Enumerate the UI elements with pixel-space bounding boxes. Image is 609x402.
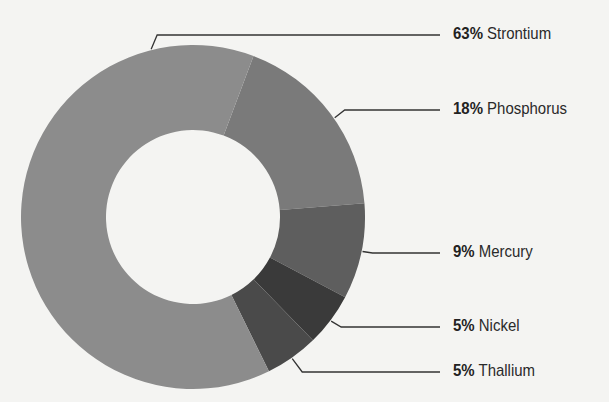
label-phosphorus: 18% Phosphorus xyxy=(453,99,567,119)
label-pct: 9% xyxy=(453,242,475,261)
label-pct: 18% xyxy=(453,99,483,118)
leader-line-mercury xyxy=(363,251,440,253)
label-pct: 5% xyxy=(453,316,475,335)
leader-line-phosphorus xyxy=(335,110,440,118)
leader-line-thallium xyxy=(292,359,440,372)
label-name: Phosphorus xyxy=(487,99,567,118)
label-pct: 63% xyxy=(453,24,483,43)
label-pct: 5% xyxy=(453,361,475,380)
label-mercury: 9% Mercury xyxy=(453,242,533,262)
label-name: Mercury xyxy=(479,242,533,261)
slice-strontium xyxy=(21,45,269,389)
label-name: Thallium xyxy=(479,361,536,380)
donut-chart xyxy=(0,0,609,402)
label-nickel: 5% Nickel xyxy=(453,316,520,336)
label-name: Strontium xyxy=(487,24,551,43)
leader-line-nickel xyxy=(331,321,440,327)
label-strontium: 63% Strontium xyxy=(453,24,551,44)
label-name: Nickel xyxy=(479,316,520,335)
label-thallium: 5% Thallium xyxy=(453,361,535,381)
